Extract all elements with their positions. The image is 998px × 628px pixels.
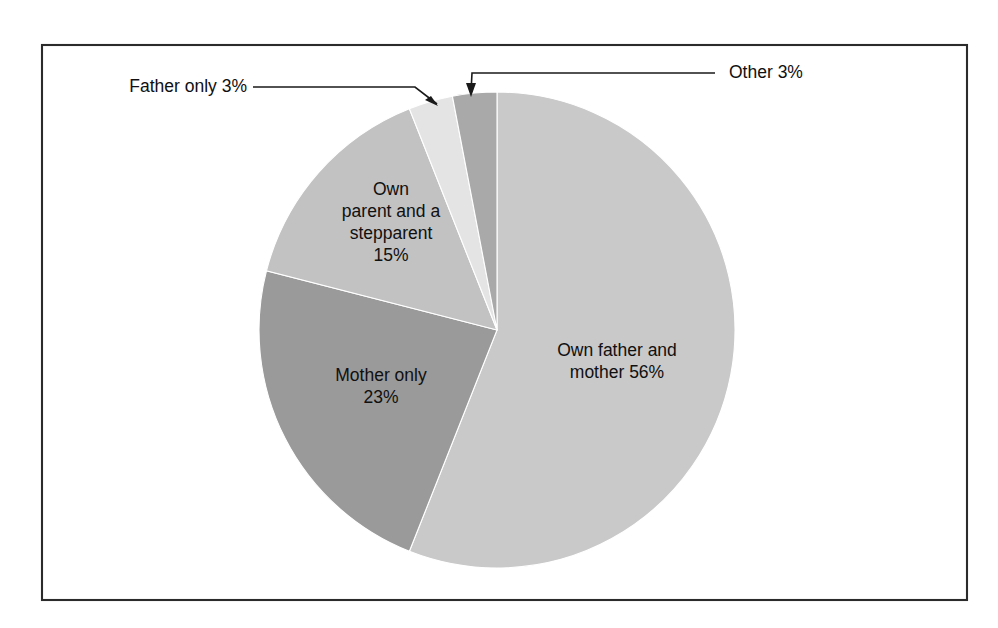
leader-line-other	[471, 73, 715, 92]
pie-callout-label-father-only: Father only 3%	[129, 76, 247, 96]
pie-slices-group	[259, 92, 735, 568]
pie-chart-figure: Own father andmother 56%Mother only23%Ow…	[0, 0, 998, 628]
pie-chart-canvas: Own father andmother 56%Mother only23%Ow…	[0, 0, 998, 628]
pie-callout-label-other: Other 3%	[729, 62, 803, 82]
leader-line-father-only	[253, 87, 437, 104]
